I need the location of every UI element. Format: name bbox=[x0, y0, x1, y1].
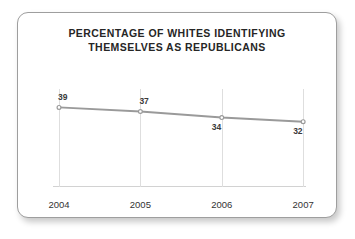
value-label-2005: 37 bbox=[139, 96, 148, 106]
data-point-2006 bbox=[220, 116, 224, 120]
chart-title-line-2: THEMSELVES AS REPUBLICANS bbox=[18, 40, 336, 54]
category-label-2004: 2004 bbox=[36, 199, 82, 210]
data-point-2005 bbox=[138, 110, 142, 114]
category-label-2006: 2006 bbox=[199, 199, 245, 210]
chart-screenshot: PERCENTAGE OF WHITES IDENTIFYING THEMSEL… bbox=[0, 0, 355, 239]
line-series bbox=[53, 89, 306, 187]
value-label-2007: 32 bbox=[293, 126, 302, 136]
data-point-2007 bbox=[301, 120, 305, 124]
series-line bbox=[59, 107, 303, 121]
value-label-2006: 34 bbox=[212, 122, 221, 132]
chart-card: PERCENTAGE OF WHITES IDENTIFYING THEMSEL… bbox=[17, 12, 337, 218]
value-label-2004: 39 bbox=[58, 92, 67, 102]
chart-title-line-1: PERCENTAGE OF WHITES IDENTIFYING bbox=[18, 26, 336, 40]
chart-title: PERCENTAGE OF WHITES IDENTIFYING THEMSEL… bbox=[18, 26, 336, 54]
plot-area bbox=[53, 89, 306, 187]
category-label-2005: 2005 bbox=[117, 199, 163, 210]
data-point-2004 bbox=[57, 105, 61, 109]
category-label-2007: 2007 bbox=[280, 199, 326, 210]
